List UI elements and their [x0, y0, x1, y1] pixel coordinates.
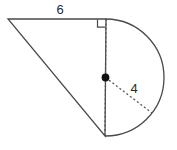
label-radius-length: 4 [130, 81, 137, 96]
figure-canvas: 6 4 [0, 0, 177, 150]
right-angle-marker-icon [98, 20, 106, 28]
label-top-side-length: 6 [56, 2, 63, 17]
semicircle-arc [105, 19, 164, 136]
radius-dashed-line [106, 78, 153, 114]
center-point-dot [102, 74, 110, 82]
triangle-shape [8, 19, 106, 136]
geometry-figure: 6 4 [0, 0, 177, 150]
